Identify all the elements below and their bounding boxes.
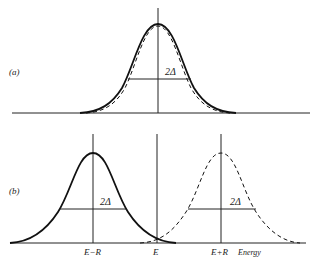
panel-b: 2Δ 2Δ (b) E−R E E+R Energy [9, 134, 306, 257]
tick-label-e-minus-r: E−R [83, 247, 102, 257]
panel-a-label: (a) [9, 67, 20, 77]
panel-b-left-width-label: 2Δ [100, 196, 111, 207]
gaussian-line-shape-diagram: 2Δ (a) 2Δ 2Δ (b) E−R E E+R Energy [0, 0, 313, 261]
panel-a: 2Δ (a) [9, 8, 310, 113]
tick-label-e: E [152, 247, 159, 257]
tick-label-e-plus-r: E+R [210, 247, 229, 257]
panel-a-width-label: 2Δ [165, 66, 176, 77]
panel-b-label: (b) [9, 186, 20, 196]
energy-axis-label: Energy [237, 248, 261, 257]
panel-b-dashed-curve [140, 153, 300, 243]
panel-b-right-width-label: 2Δ [230, 196, 241, 207]
